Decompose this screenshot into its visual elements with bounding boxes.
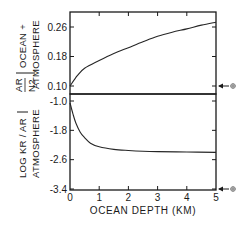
bottom-y-axis-label: LOG KR / AR ATMOSPHERE — [17, 109, 41, 178]
y-tick-label: -2.6 — [50, 154, 68, 165]
y-tick-label: -1.8 — [50, 125, 68, 136]
top-panel-frame — [70, 12, 216, 94]
annotation-arrowhead — [218, 84, 223, 89]
bottom-y-label-line2: ATMOSPHERE — [30, 109, 41, 178]
fraction-numerator: AR — [13, 78, 24, 92]
x-tick-label: 2 — [126, 192, 132, 203]
y-tick-label: 0.10 — [48, 81, 68, 92]
x-axis-label: OCEAN DEPTH (KM) — [90, 205, 196, 216]
x-tick-label: 4 — [184, 192, 190, 203]
y-tick-label: 0.18 — [48, 51, 68, 62]
top-y-label-ocean: OCEAN + — [17, 24, 28, 68]
x-tick-label: 5 — [213, 192, 219, 203]
y-tick-label: -3.4 — [50, 184, 68, 195]
top-y-label-atmosphere: ATMOSPHERE — [30, 20, 41, 89]
y-tick-label: -1.0 — [50, 96, 68, 107]
x-tick-label: 1 — [96, 192, 102, 203]
bottom-y-label-line1: LOG KR / AR — [17, 118, 28, 178]
bottom-panel-frame — [70, 94, 216, 190]
x-tick-label: 0 — [67, 192, 73, 203]
series-line-ar-n2 — [70, 22, 216, 86]
annotation-arrowhead — [218, 187, 223, 192]
top-y-axis-label: AR N2 OCEAN + ATMOSPHERE — [13, 20, 41, 92]
series-line-kr-ar — [70, 103, 216, 152]
y-tick-label: 0.26 — [48, 22, 68, 33]
x-tick-label: 3 — [155, 192, 161, 203]
chart-figure: 0.100.180.26-1.0-1.8-2.6-3.4012345 AR N2… — [0, 0, 248, 225]
